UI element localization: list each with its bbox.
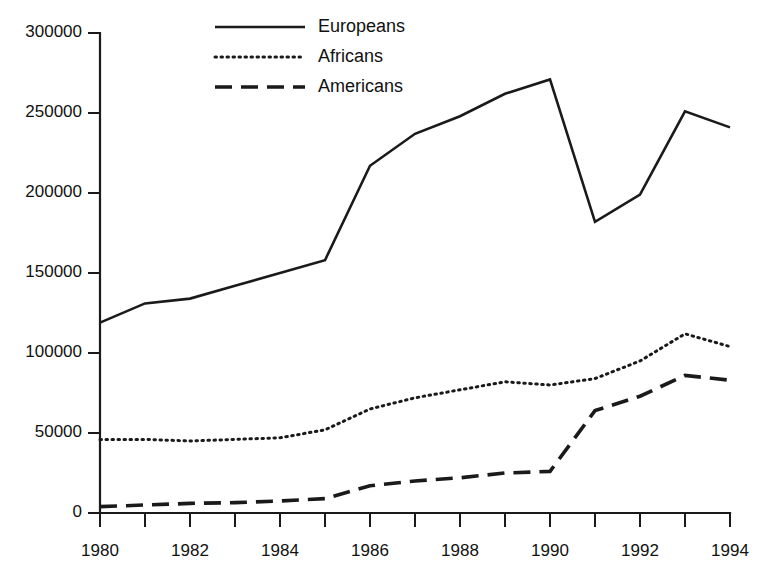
y-tick-label: 50000 [35, 422, 82, 441]
x-tick-label: 1988 [441, 541, 479, 560]
series-line-europeans [100, 79, 730, 322]
y-tick-label: 250000 [25, 102, 82, 121]
line-chart: 050000100000150000200000250000300000 198… [0, 0, 771, 581]
x-tick-label: 1980 [81, 541, 119, 560]
x-tick-label: 1984 [261, 541, 299, 560]
legend-label-africans: Africans [318, 46, 383, 66]
x-tick-label: 1982 [171, 541, 209, 560]
y-tick-label: 300000 [25, 22, 82, 41]
y-tick-label: 100000 [25, 342, 82, 361]
x-tick-label: 1992 [621, 541, 659, 560]
y-tick-label: 150000 [25, 262, 82, 281]
data-series-group [100, 79, 730, 506]
y-tick-label: 0 [73, 502, 82, 521]
x-tick-label: 1986 [351, 541, 389, 560]
y-axis-ticks: 050000100000150000200000250000300000 [25, 22, 100, 521]
series-line-africans [100, 334, 730, 441]
x-tick-label: 1994 [711, 541, 749, 560]
legend-label-europeans: Europeans [318, 16, 405, 36]
chart-legend: EuropeansAfricansAmericans [215, 16, 405, 96]
y-tick-label: 200000 [25, 182, 82, 201]
chart-canvas: 050000100000150000200000250000300000 198… [0, 0, 771, 581]
legend-label-americans: Americans [318, 76, 403, 96]
x-axis-ticks: 19801982198419861988199019921994 [81, 513, 749, 560]
x-tick-label: 1990 [531, 541, 569, 560]
